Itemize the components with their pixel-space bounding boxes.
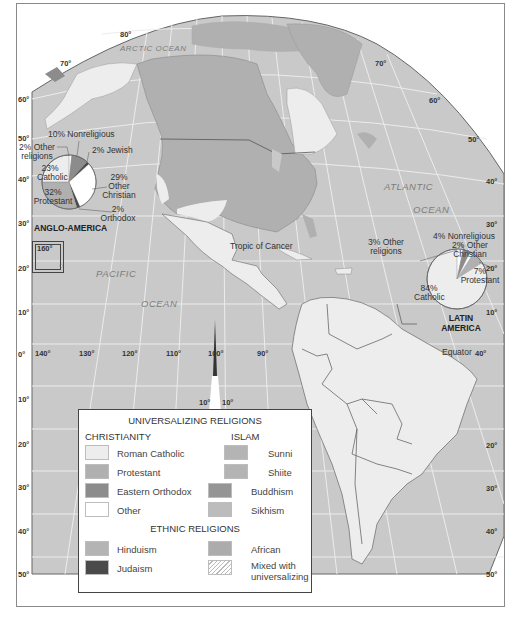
swatch-protestant	[85, 464, 109, 479]
pie-label-other-religions: 2% Otherreligions	[19, 143, 55, 161]
swatch-sikhism	[208, 502, 232, 517]
lat-label: 50°	[486, 570, 497, 579]
legend-christianity-heading: CHRISTIANITY	[85, 431, 151, 442]
swatch-eastern-orthodox	[85, 483, 109, 498]
swatch-hinduism	[85, 541, 109, 556]
lat-label: 70°	[375, 59, 386, 68]
lon-label: 120°	[122, 349, 138, 358]
inset-label: 160°	[37, 244, 53, 253]
lon-label: 90°	[257, 349, 268, 358]
lat-label: 40°	[486, 527, 497, 536]
legend: UNIVERSALIZING RELIGIONS CHRISTIANITY IS…	[78, 409, 312, 593]
lat-label: 30°	[18, 483, 29, 492]
map-frame: ARCTIC OCEAN ATLANTIC OCEAN PACIFIC OCEA…	[16, 3, 505, 607]
arctic-ocean-label: ARCTIC OCEAN	[120, 44, 186, 53]
legend-islam-heading: ISLAM	[231, 431, 260, 442]
legend-eastern-orthodox: Eastern Orthodox	[117, 486, 191, 497]
legend-sunni: Sunni	[268, 448, 292, 459]
lat-label: 20°	[18, 440, 29, 449]
lat-label: 40°	[486, 177, 497, 186]
pie-label-other-christian: 29%OtherChristian	[99, 173, 139, 200]
pacific-ocean-label-2: OCEAN	[141, 298, 177, 309]
pie-label-other-christian: 2% OtherChristian	[449, 241, 491, 259]
lon-label: 100°	[208, 349, 224, 358]
legend-judaism: Judaism	[117, 563, 152, 574]
legend-other: Other	[117, 505, 141, 516]
legend-sikhism: Sikhism	[251, 505, 284, 516]
pie-label-catholic: 84%Catholic	[414, 284, 444, 302]
legend-mixed: Mixed withuniversalizing	[251, 560, 309, 582]
lat-label: 10°	[486, 308, 497, 317]
swatch-shiite	[224, 464, 248, 479]
lat-label: 10°	[18, 395, 29, 404]
lat-label: 20°	[486, 441, 497, 450]
swatch-african	[208, 541, 232, 556]
lat-label: 30°	[486, 484, 497, 493]
wedge-label: 10°	[222, 398, 233, 407]
pie-label-jewish: 2% Jewish	[92, 146, 133, 155]
lat-label: 0°	[18, 350, 25, 359]
pie-label-other-religions: 3% Otherreligions	[366, 238, 406, 256]
lat-label: 70°	[60, 59, 71, 68]
swatch-sunni	[224, 445, 248, 460]
tropic-of-cancer-label: Tropic of Cancer	[230, 242, 293, 251]
legend-hinduism: Hinduism	[117, 544, 157, 555]
swatch-buddhism	[208, 483, 232, 498]
legend-buddhism: Buddhism	[251, 486, 293, 497]
lat-label: 50°	[18, 570, 29, 579]
swatch-roman-catholic	[85, 445, 109, 460]
swatch-mixed	[208, 560, 232, 575]
lat-label: 40°	[18, 527, 29, 536]
legend-universalizing-heading: UNIVERSALIZING RELIGIONS	[79, 415, 311, 426]
legend-protestant: Protestant	[117, 467, 160, 478]
legend-ethnic-heading: ETHNIC RELIGIONS	[79, 523, 311, 534]
pie-label-nonreligious: 10% Nonreligious	[48, 130, 115, 139]
legend-shiite: Shiite	[268, 467, 292, 478]
swatch-other	[85, 502, 109, 517]
legend-roman-catholic: Roman Catholic	[117, 448, 185, 459]
swatch-judaism	[85, 560, 109, 575]
pie-label-protestant: 7%Protestant	[460, 267, 500, 285]
lat-label: 30°	[486, 220, 497, 229]
lat-label: 30°	[18, 219, 29, 228]
pie-label-protestant: 32%Protestant	[33, 188, 73, 206]
anglo-america-title: ANGLO-AMERICA	[34, 223, 107, 233]
lat-label: 50°	[468, 135, 479, 144]
lat-label: 80°	[120, 30, 131, 39]
lon-label: 140°	[35, 349, 51, 358]
lat-label: 60°	[429, 96, 440, 105]
atlantic-ocean-label-2: OCEAN	[413, 204, 449, 215]
pie-label-orthodox: 2%Orthodox	[100, 205, 136, 223]
wedge-label: 10°	[199, 398, 210, 407]
lon-label: 130°	[79, 349, 95, 358]
lat-label: 60°	[18, 95, 29, 104]
atlantic-ocean-label-1: ATLANTIC	[384, 181, 433, 192]
lat-label: 10°	[18, 308, 29, 317]
legend-african: African	[251, 544, 281, 555]
lon-label: 40°	[475, 349, 486, 358]
lat-label: 40°	[18, 175, 29, 184]
lat-label: 20°	[18, 264, 29, 273]
latin-america-title: LATINAMERICA	[441, 313, 481, 333]
lon-label: 110°	[166, 349, 181, 358]
pie-label-catholic: 23%Catholic	[37, 164, 63, 182]
pacific-ocean-label-1: PACIFIC	[96, 268, 136, 279]
equator-label: Equator	[442, 348, 472, 357]
